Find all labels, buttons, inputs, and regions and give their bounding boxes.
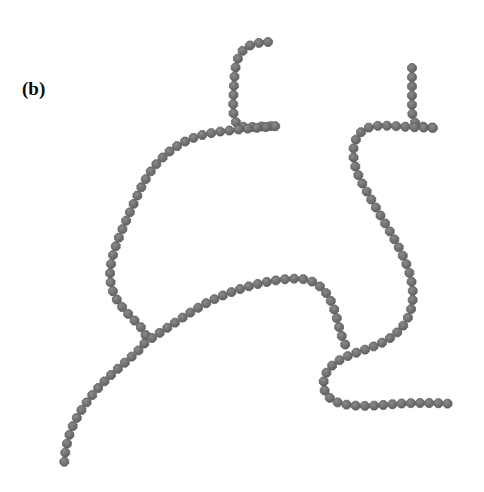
chain-bead [252,123,261,132]
chain-bead [134,346,143,355]
chain-bead [392,122,401,131]
chain-bead [141,175,150,184]
chain-bead [262,278,271,287]
chain-bead [408,82,417,91]
chain-bead [352,348,361,357]
chain-bead [181,137,190,146]
chain-bead [390,235,399,244]
chain-bead [107,260,116,269]
chain-bead [416,399,425,408]
chain-bead [402,260,411,269]
chain-bead [349,153,358,162]
chain-bead [360,401,369,410]
chain-bead [106,269,115,278]
chain-chain-right [319,64,452,411]
chain-bead [218,291,227,300]
chain-bead [376,211,385,220]
chain-bead [381,219,390,228]
chain-bead [398,251,407,260]
chain-bead [335,323,344,332]
chain-bead [72,413,81,422]
chain-bead [189,133,198,142]
chain-bead [370,401,379,410]
chain-bead [120,358,129,367]
chain-bead [127,352,136,361]
chain-bead [361,345,370,354]
chain-bead [333,398,342,407]
chain-bead [229,91,238,100]
chain-bead [108,287,117,296]
chain-bead [113,364,122,373]
chain-bead [408,73,417,82]
chain-bead [369,342,378,351]
chain-bead [403,313,412,322]
chain-bead [373,121,382,130]
chain-bead [231,63,240,72]
chain-bead [322,368,331,377]
chain-bead [388,400,397,409]
chain-bead [225,126,234,135]
chain-bead [434,399,443,408]
chain-bead [319,377,328,386]
chain-bead [349,144,358,153]
chain-bead [216,127,225,136]
chain-bead [407,305,416,314]
chain-bead [419,123,428,132]
polymer-chain-canvas [0,0,484,492]
chain-bead [367,195,376,204]
chain-bead [210,295,219,304]
chain-bead [408,100,417,109]
chain-bead [243,124,252,133]
chain-bead [371,203,380,212]
chain-bead [229,81,238,90]
chain-bead [253,280,262,289]
chain-bead [202,299,211,308]
chain-bead [425,399,434,408]
chain-bead [111,242,120,251]
chain-bead [299,275,308,284]
chain-bead [330,305,339,314]
chain-bead [351,401,360,410]
chain-chain-left-lower-branch [148,274,350,349]
chain-bead [230,72,239,81]
chain-chain-left [60,38,280,467]
chain-bead [77,406,86,415]
figure-panel: (b) [0,0,484,492]
chain-bead [100,377,109,386]
chain-bead [125,208,134,217]
chain-bead [63,439,72,448]
chain-bead [332,314,341,323]
chain-bead [130,316,139,325]
chain-bead [229,100,238,109]
chain-bead [408,296,417,305]
chain-bead [254,38,263,47]
chain-bead [408,286,417,295]
chain-bead [281,275,290,284]
chain-bead [379,401,388,410]
chain-bead [233,54,242,63]
chain-bead [207,129,216,138]
chain-bead [386,334,395,343]
chain-bead [133,191,142,200]
chain-bead [65,430,74,439]
chain-bead [358,179,367,188]
chain-bead [271,276,280,285]
chain-bead [227,288,236,297]
chain-bead [407,277,416,286]
chain-bead [385,227,394,236]
bead-layer [60,38,452,467]
chain-bead [343,352,352,361]
chain-bead [408,64,417,73]
chain-bead [122,216,131,225]
chain-bead [158,153,167,162]
chain-bead [326,297,335,306]
chain-bead [271,122,280,131]
chain-bead [61,448,70,457]
chain-bead [405,268,414,277]
chain-bead [325,393,334,402]
chain-bead [351,162,360,171]
chain-bead [114,233,123,242]
chain-bead [60,457,69,466]
chain-bead [194,303,203,312]
chain-bead [124,309,133,318]
